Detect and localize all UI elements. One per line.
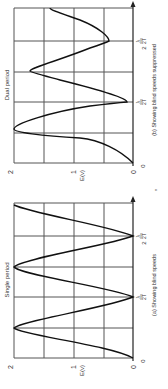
axis-arrow-icon [131,1,136,7]
y-tick-2: 2 [7,170,14,174]
y-tick-1: 1 [70,365,77,369]
chart-title: Single period [4,262,10,297]
chart-caption: (a) Showing blind speeds [151,254,157,316]
grid [14,8,133,163]
y-tick-2: 2 [7,365,14,369]
y-tick-0: 0 [130,365,137,369]
chart-panel-dual-period: 2 1 0 E(v) 0 λ 2T 2 λ 2T (b) Showing bli… [0,0,168,194]
axis-var-label: v [153,189,158,191]
x-tick-2-prefix: 2 [141,46,147,50]
x-tick-2-prefix: 2 [141,241,147,245]
y-axis-label: E(v) [79,170,85,181]
y-tick-0: 0 [130,170,137,174]
single-period-chart: 2 1 0 E(v) 0 λ 2T 2 λ 2T (a) Showing bli… [0,195,168,389]
grid [14,203,133,358]
x-tick-1-den: 2T [141,294,147,300]
y-tick-1: 1 [70,170,77,174]
chart-panel-single-period: 2 1 0 E(v) 0 λ 2T 2 λ 2T (a) Showing bli… [0,195,168,389]
chart-caption: (b) Showing blind speeds suppressed [151,44,157,136]
dual-period-chart: 2 1 0 E(v) 0 λ 2T 2 λ 2T (b) Showing bli… [0,0,168,194]
x-tick-0: 0 [140,164,146,168]
x-tick-2-den: 2T [141,38,147,44]
y-axis-label: E(v) [79,365,85,376]
x-tick-1-den: 2T [141,99,147,105]
chart-title: Dual period [4,70,10,101]
x-tick-0: 0 [140,359,146,363]
axis-arrow-icon [131,196,136,202]
x-tick-2-den: 2T [141,233,147,239]
